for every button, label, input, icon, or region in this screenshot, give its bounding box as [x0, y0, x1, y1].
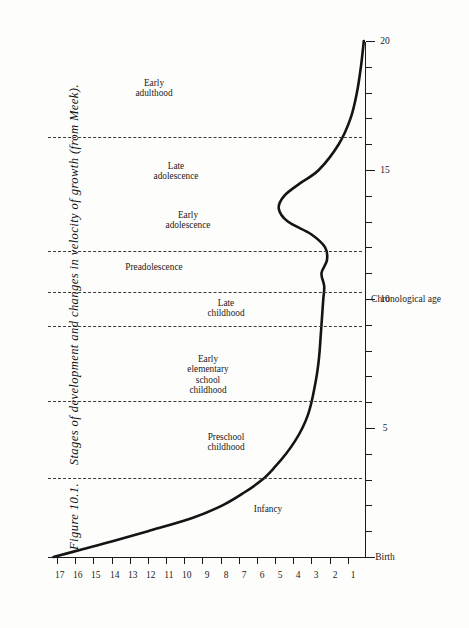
- y-tick-17: [57, 558, 58, 564]
- y-tick-2: [330, 558, 331, 564]
- x-tick-label-5: 5: [383, 423, 388, 433]
- x-tick-5: [366, 428, 375, 429]
- y-tick-14: [112, 558, 113, 564]
- x-axis-title: Chronological age: [371, 294, 441, 304]
- y-tick-label-5: 5: [268, 570, 283, 580]
- x-tick-0: [366, 557, 375, 558]
- x-tick-14: [366, 196, 372, 197]
- y-tick-label-14: 14: [104, 570, 119, 580]
- x-tick-1: [366, 531, 372, 532]
- x-tick-7: [366, 376, 372, 377]
- x-tick-19: [366, 67, 372, 68]
- figure-number: Figure 10.1.: [67, 483, 81, 550]
- stage-separator-2: [48, 401, 362, 402]
- x-tick-15: [366, 170, 375, 171]
- y-tick-6: [257, 558, 258, 564]
- x-tick-label-birth: Birth: [375, 552, 395, 562]
- x-tick-20: [366, 41, 375, 42]
- stage-label-early-adulthood: Early adulthood: [135, 78, 172, 99]
- x-tick-9: [366, 325, 372, 326]
- x-tick-2: [366, 505, 372, 506]
- y-tick-9: [202, 558, 203, 564]
- y-tick-label-9: 9: [195, 570, 210, 580]
- y-tick-label-7: 7: [231, 570, 246, 580]
- y-tick-label-13: 13: [122, 570, 137, 580]
- stage-label-late-adolescence: Late adolescence: [154, 161, 199, 182]
- y-tick-label-4: 4: [286, 570, 301, 580]
- x-tick-4: [366, 454, 372, 455]
- stage-label-early-adolescence: Early adolescence: [166, 210, 211, 231]
- x-tick-16: [366, 144, 372, 145]
- stage-label-early-elementary-school-childhood: Early elementary school childhood: [187, 355, 228, 397]
- y-tick-12: [148, 558, 149, 564]
- x-tick-6: [366, 402, 372, 403]
- x-tick-17: [366, 118, 372, 119]
- x-tick-18: [366, 93, 372, 94]
- y-tick-13: [130, 558, 131, 564]
- x-tick-label-20: 20: [380, 36, 390, 46]
- x-tick-11: [366, 273, 372, 274]
- y-tick-label-8: 8: [213, 570, 228, 580]
- y-tick-5: [275, 558, 276, 564]
- x-tick-13: [366, 222, 372, 223]
- y-tick-4: [293, 558, 294, 564]
- y-tick-label-2: 2: [322, 570, 337, 580]
- scanned-page: Birth5101520 1234567891011121314151617 I…: [0, 0, 469, 628]
- y-tick-label-3: 3: [304, 570, 319, 580]
- stage-label-late-childhood: Late childhood: [207, 298, 244, 319]
- y-tick-label-17: 17: [50, 570, 65, 580]
- stage-separator-5: [48, 251, 362, 252]
- y-tick-3: [311, 558, 312, 564]
- y-tick-15: [93, 558, 94, 564]
- x-tick-8: [366, 351, 372, 352]
- y-tick-8: [221, 558, 222, 564]
- stage-label-preschool-childhood: Preschool childhood: [207, 432, 244, 453]
- figure-caption-text: Stages of development and changes in vel…: [67, 84, 81, 465]
- y-tick-11: [166, 558, 167, 564]
- y-tick-1: [348, 558, 349, 564]
- x-tick-label-15: 15: [380, 165, 390, 175]
- figure-plot-area: Birth5101520 1234567891011121314151617 I…: [34, 14, 434, 614]
- figure-caption: Figure 10.1. Stages of development and c…: [67, 17, 89, 617]
- stage-label-preadolescence: Preadolescence: [125, 262, 182, 272]
- y-tick-label-10: 10: [177, 570, 192, 580]
- stage-label-infancy: Infancy: [254, 504, 282, 514]
- x-tick-12: [366, 247, 372, 248]
- stage-separator-1: [48, 478, 362, 479]
- y-tick-label-11: 11: [159, 570, 174, 580]
- stage-separator-3: [48, 326, 362, 327]
- y-tick-label-12: 12: [140, 570, 155, 580]
- y-tick-label-1: 1: [340, 570, 355, 580]
- y-tick-10: [184, 558, 185, 564]
- y-tick-7: [239, 558, 240, 564]
- y-tick-label-6: 6: [249, 570, 264, 580]
- x-tick-3: [366, 480, 372, 481]
